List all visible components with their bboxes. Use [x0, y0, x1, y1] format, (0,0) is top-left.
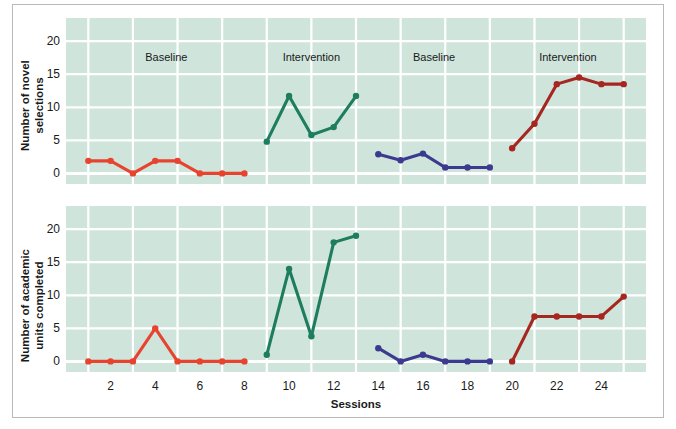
y-tick-label: 20	[34, 223, 60, 235]
y-tick-label: 0	[34, 167, 60, 179]
y-tick-label: 5	[34, 134, 60, 146]
x-tick-label: 6	[189, 380, 211, 392]
phase-label-2: Baseline	[384, 52, 484, 63]
x-tick-label: 14	[367, 380, 389, 392]
x-tick-label: 10	[278, 380, 300, 392]
x-tick-label: 20	[501, 380, 523, 392]
bottom-panel: Number of academic units completed 05101…	[0, 200, 676, 429]
figure-root: Number of novel selections 05101520 Base…	[0, 0, 676, 429]
x-tick-label: 18	[457, 380, 479, 392]
top-plot-area	[66, 18, 646, 184]
bottom-chart-svg	[66, 206, 646, 372]
x-tick-label: 16	[412, 380, 434, 392]
y-tick-label: 15	[34, 68, 60, 80]
x-tick-label: 24	[590, 380, 612, 392]
y-tick-label: 5	[34, 322, 60, 334]
bottom-plot-area	[66, 206, 646, 372]
top-y-axis-title-line1: Number of novel	[19, 54, 33, 158]
y-tick-label: 15	[34, 256, 60, 268]
phase-label-1: Intervention	[261, 52, 361, 63]
x-axis-title: Sessions	[296, 399, 416, 411]
phase-label-0: Baseline	[116, 52, 216, 63]
phase-label-3: Intervention	[518, 52, 618, 63]
x-tick-label: 2	[100, 380, 122, 392]
y-tick-label: 10	[34, 289, 60, 301]
y-tick-label: 0	[34, 355, 60, 367]
x-tick-label: 22	[546, 380, 568, 392]
bottom-y-axis-title-line1: Number of academic	[19, 242, 33, 370]
x-tick-label: 12	[323, 380, 345, 392]
y-tick-label: 10	[34, 101, 60, 113]
x-tick-label: 8	[233, 380, 255, 392]
x-tick-label: 4	[144, 380, 166, 392]
top-chart-svg	[66, 18, 646, 184]
y-tick-label: 20	[34, 35, 60, 47]
top-panel: Number of novel selections 05101520 Base…	[0, 0, 676, 200]
